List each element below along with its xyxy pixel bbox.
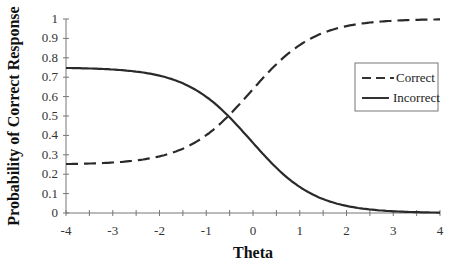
y-tick-label: 0.6 [42,89,59,104]
y-tick-label: 0.2 [42,166,58,181]
x-tick-label: 2 [343,223,350,238]
y-tick-label: 0.3 [42,147,58,162]
y-axis-title: Probability of Correct Response [5,6,23,225]
legend: Correct Incorrect [355,63,440,111]
y-tick-label: 0.8 [42,50,58,65]
x-tick-label: 0 [250,223,257,238]
x-tick-label: 3 [390,223,397,238]
legend-label-correct: Correct [396,70,435,85]
y-tick-label: 1 [52,11,59,26]
y-tick-label: 0.7 [42,69,59,84]
y-tick-label: 0.9 [42,30,58,45]
irt-chart: -4-3-2-10123400.10.20.30.40.50.60.70.80.… [0,0,462,268]
series-group [66,19,440,212]
x-tick-label: -1 [201,223,212,238]
axes: -4-3-2-10123400.10.20.30.40.50.60.70.80.… [42,11,444,238]
y-tick-label: 0.4 [42,127,59,142]
x-tick-label: -4 [61,223,72,238]
x-axis-title: Theta [233,244,273,261]
x-tick-label: 1 [297,223,304,238]
legend-label-incorrect: Incorrect [393,90,440,105]
y-tick-label: 0.1 [42,186,58,201]
x-tick-label: -2 [154,223,165,238]
x-tick-label: -3 [107,223,118,238]
y-tick-label: 0 [52,205,59,220]
x-tick-label: 4 [437,223,444,238]
y-tick-label: 0.5 [42,108,58,123]
